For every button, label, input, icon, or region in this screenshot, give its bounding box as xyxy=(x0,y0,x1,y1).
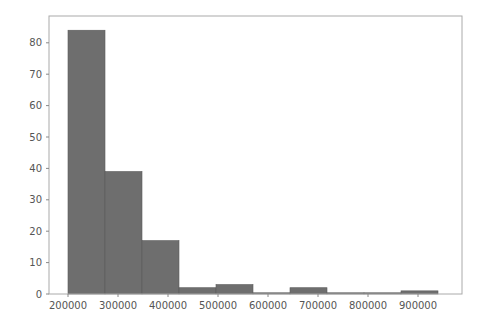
y-tick-label: 40 xyxy=(29,163,42,174)
y-tick-label: 50 xyxy=(29,132,42,143)
histogram-chart: 01020304050607080 2000003000004000005000… xyxy=(0,0,492,335)
x-tick-label: 900000 xyxy=(399,300,437,311)
histogram-bar xyxy=(105,172,142,294)
x-tick-label: 800000 xyxy=(349,300,387,311)
histogram-bars xyxy=(68,30,438,294)
y-tick-label: 70 xyxy=(29,69,42,80)
histogram-bar xyxy=(290,288,327,294)
y-tick-label: 30 xyxy=(29,194,42,205)
y-tick-label: 10 xyxy=(29,257,42,268)
x-tick-label: 400000 xyxy=(149,300,187,311)
x-tick-label: 600000 xyxy=(249,300,287,311)
y-axis: 01020304050607080 xyxy=(29,37,49,299)
x-tick-label: 500000 xyxy=(199,300,237,311)
x-tick-label: 300000 xyxy=(99,300,137,311)
y-tick-label: 0 xyxy=(36,289,42,300)
y-tick-label: 60 xyxy=(29,100,42,111)
x-tick-label: 700000 xyxy=(299,300,337,311)
histogram-bar xyxy=(142,241,179,294)
y-tick-label: 20 xyxy=(29,226,42,237)
x-tick-label: 200000 xyxy=(49,300,87,311)
histogram-bar xyxy=(68,30,105,294)
histogram-bar xyxy=(216,285,253,294)
y-tick-label: 80 xyxy=(29,37,42,48)
histogram-bar xyxy=(179,288,216,294)
x-axis: 2000003000004000005000006000007000008000… xyxy=(49,294,437,311)
